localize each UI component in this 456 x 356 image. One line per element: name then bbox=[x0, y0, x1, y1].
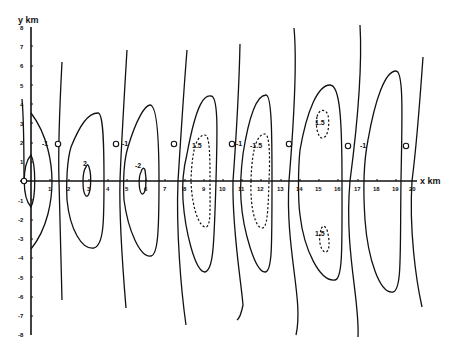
svg-text:1.5: 1.5 bbox=[315, 119, 325, 126]
svg-text:2: 2 bbox=[67, 186, 71, 192]
svg-text:-1: -1 bbox=[122, 140, 128, 147]
svg-text:17: 17 bbox=[354, 186, 361, 192]
contour-diagram: y km x km 8 7 6 5 4 3 2 1 -1 -2 -3 -4 -5… bbox=[0, 0, 456, 356]
y-axis-title: y km bbox=[18, 15, 39, 25]
svg-text:16: 16 bbox=[334, 186, 341, 192]
svg-text:20: 20 bbox=[409, 186, 416, 192]
svg-text:9: 9 bbox=[202, 186, 206, 192]
svg-text:-1: -1 bbox=[18, 198, 24, 204]
svg-text:14: 14 bbox=[296, 186, 303, 192]
svg-text:-7: -7 bbox=[18, 313, 24, 319]
svg-text:7: 7 bbox=[20, 44, 24, 50]
svg-text:18: 18 bbox=[373, 186, 380, 192]
svg-text:15: 15 bbox=[315, 186, 322, 192]
svg-text:7: 7 bbox=[163, 186, 167, 192]
svg-text:6: 6 bbox=[20, 63, 24, 69]
svg-text:11: 11 bbox=[238, 186, 245, 192]
svg-text:-2: -2 bbox=[135, 162, 141, 169]
svg-text:-3: -3 bbox=[18, 236, 24, 242]
svg-text:-4: -4 bbox=[18, 255, 24, 261]
svg-text:12: 12 bbox=[257, 186, 264, 192]
svg-text:-8: -8 bbox=[18, 332, 24, 338]
svg-text:4: 4 bbox=[106, 186, 110, 192]
svg-text:-6: -6 bbox=[18, 294, 24, 300]
svg-text:10: 10 bbox=[219, 186, 226, 192]
svg-text:2: 2 bbox=[83, 160, 87, 167]
svg-text:-2: -2 bbox=[18, 217, 24, 223]
svg-text:-1: -1 bbox=[236, 140, 242, 147]
x-axis-title: x km bbox=[420, 176, 441, 186]
svg-text:13: 13 bbox=[277, 186, 284, 192]
svg-text:5: 5 bbox=[20, 83, 24, 89]
svg-text:8: 8 bbox=[20, 25, 24, 31]
svg-text:8: 8 bbox=[183, 186, 187, 192]
svg-text:-1.5: -1.5 bbox=[250, 142, 262, 149]
svg-text:1.5: 1.5 bbox=[315, 230, 325, 237]
svg-text:-1: -1 bbox=[360, 142, 366, 149]
svg-text:5: 5 bbox=[125, 186, 129, 192]
svg-text:19: 19 bbox=[392, 186, 399, 192]
svg-text:-5: -5 bbox=[18, 275, 24, 281]
svg-text:1.5: 1.5 bbox=[192, 142, 202, 149]
svg-text:-1: -1 bbox=[42, 140, 48, 147]
